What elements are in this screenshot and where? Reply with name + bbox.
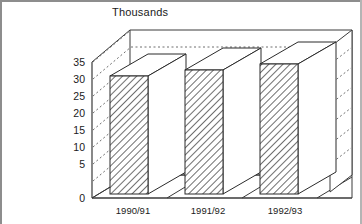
bar-1992-93[interactable] bbox=[260, 42, 336, 194]
x-tick-label: 1991/92 bbox=[191, 205, 225, 216]
bar-chart-plot: 35 30 25 20 15 10 5 0 1990/91 1991/92 19… bbox=[0, 0, 362, 224]
y-tick-label: 15 bbox=[73, 124, 85, 136]
y-tick-label: 25 bbox=[73, 90, 85, 102]
y-tick-label: 10 bbox=[73, 141, 85, 153]
y-tick-labels: 35 30 25 20 15 10 5 0 bbox=[73, 56, 85, 204]
x-tick-labels: 1990/91 1991/92 1992/93 bbox=[116, 205, 302, 216]
y-tick-label: 5 bbox=[79, 158, 85, 170]
y-tick-label: 30 bbox=[73, 73, 85, 85]
bar-1990-91[interactable] bbox=[110, 54, 186, 194]
y-tick-label: 0 bbox=[79, 192, 85, 204]
x-tick-label: 1990/91 bbox=[116, 205, 150, 216]
y-tick-label: 20 bbox=[73, 107, 85, 119]
bar-1991-92[interactable] bbox=[185, 48, 261, 194]
x-tick-label: 1992/93 bbox=[268, 205, 302, 216]
y-tick-label: 35 bbox=[73, 56, 85, 68]
chart-screenshot: Thousands bbox=[0, 0, 362, 224]
